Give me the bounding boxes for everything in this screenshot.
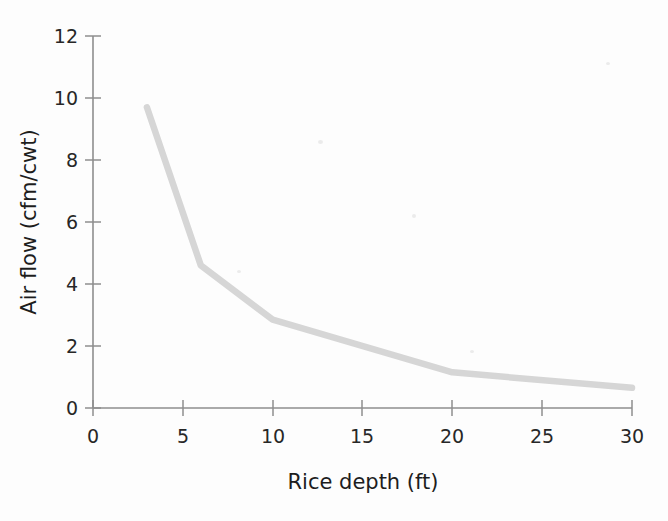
x-tick-label-20: 20 [440, 425, 464, 447]
x-tick-label-30: 30 [620, 425, 644, 447]
y-tick-label-0: 0 [66, 397, 78, 419]
x-tick-label-25: 25 [530, 425, 554, 447]
x-axis-title: Rice depth (ft) [287, 470, 438, 494]
y-tick-label-2: 2 [66, 335, 78, 357]
y-tick-label-6: 6 [66, 211, 78, 233]
y-axis-tick-labels: 0 2 4 6 8 10 12 [54, 25, 78, 419]
x-tick-label-15: 15 [350, 425, 374, 447]
x-tick-label-10: 10 [261, 425, 285, 447]
x-axis-tick-labels: 0 5 10 15 20 25 30 [87, 425, 644, 447]
x-tick-label-5: 5 [177, 425, 189, 447]
y-tick-label-12: 12 [54, 25, 78, 47]
y-axis-title: Air flow (cfm/cwt) [17, 129, 41, 314]
chart-plot-area: 0 2 4 6 8 10 12 0 5 10 15 20 25 30 [0, 0, 668, 521]
chart-figure: 0 2 4 6 8 10 12 0 5 10 15 20 25 30 [0, 0, 668, 521]
y-tick-label-10: 10 [54, 87, 78, 109]
x-tick-label-0: 0 [87, 425, 99, 447]
y-tick-label-4: 4 [66, 273, 78, 295]
data-series-line [147, 107, 632, 388]
y-tick-label-8: 8 [66, 149, 78, 171]
